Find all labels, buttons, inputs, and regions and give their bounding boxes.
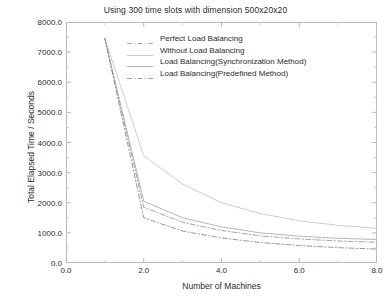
x-tick-label: 2.0 <box>124 266 164 275</box>
y-tick-label: 8000.0 <box>4 18 62 27</box>
x-tick-label: 6.0 <box>279 266 319 275</box>
legend-item: Perfect Load Balancing <box>126 33 336 45</box>
legend-swatch-icon <box>126 69 154 78</box>
x-tick-label: 4.0 <box>202 266 242 275</box>
y-axis-label: Total Elapsed Time / Seconds <box>26 52 36 242</box>
chart-legend: Perfect Load BalancingWithout Load Balan… <box>126 33 336 79</box>
legend-item: Without Load Balancing <box>126 45 336 57</box>
legend-label: Load Balancing(Synchronization Method) <box>160 57 306 66</box>
x-tick-label: 8.0 <box>357 266 391 275</box>
legend-label: Load Balancing(Predefined Method) <box>160 69 288 78</box>
x-axis-label: Number of Machines <box>66 281 377 291</box>
chart-container: Using 300 time slots with dimension 500x… <box>0 0 391 302</box>
legend-swatch-icon <box>126 57 154 66</box>
legend-swatch-icon <box>126 34 154 43</box>
legend-item: Load Balancing(Predefined Method) <box>126 68 336 80</box>
legend-label: Without Load Balancing <box>160 46 245 55</box>
legend-swatch-icon <box>126 46 154 55</box>
legend-label: Perfect Load Balancing <box>160 34 243 43</box>
x-tick-label: 0.0 <box>46 266 86 275</box>
legend-item: Load Balancing(Synchronization Method) <box>126 56 336 68</box>
